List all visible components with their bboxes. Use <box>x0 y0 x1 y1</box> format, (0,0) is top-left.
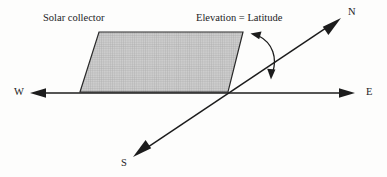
angle-arc-start-arrowhead-icon <box>251 32 262 40</box>
compass-label-south: S <box>121 158 127 169</box>
north-arrowhead-icon <box>323 18 341 35</box>
compass-label-north: N <box>348 7 356 18</box>
elevation-latitude-label: Elevation = Latitude <box>196 13 282 24</box>
compass-label-east: E <box>366 87 372 98</box>
west-arrowhead-icon <box>30 88 46 98</box>
diagram-canvas <box>0 0 387 177</box>
compass-label-west: W <box>14 87 24 98</box>
south-arrowhead-icon <box>133 140 151 157</box>
solar-collector-diagram: Solar collector Elevation = Latitude N W… <box>0 0 387 177</box>
east-arrowhead-icon <box>339 88 355 98</box>
solar-collector-label: Solar collector <box>43 13 105 24</box>
elevation-angle-arc <box>251 32 276 80</box>
angle-arc-end-arrowhead-icon <box>267 69 275 80</box>
solar-collector-panel <box>80 32 243 92</box>
